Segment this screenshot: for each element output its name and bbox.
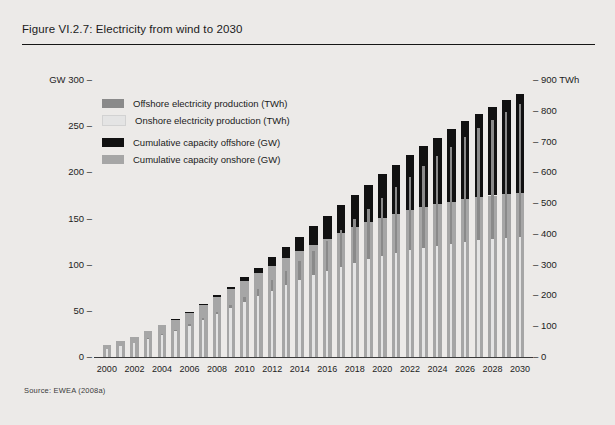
bar-strip-production-offshore [312,251,314,276]
bar-segment-capacity-offshore [295,237,304,251]
bar-strip-production-onshore [491,239,493,357]
bar-segment-capacity-offshore [185,312,194,313]
bar-strip-production-offshore [243,297,245,302]
bar-strip-production-onshore [119,346,121,357]
bar-strip-production-offshore [367,209,369,260]
bar-strip-production-onshore [133,343,135,357]
bar-strip-production-onshore [464,242,466,357]
legend-item: Cumulative capacity onshore (GW) [102,152,332,167]
bar-strip-production-offshore [147,338,149,339]
bar-strip-production-offshore [271,280,273,291]
bar-segment-capacity-offshore [171,319,180,320]
y-axis-left-tick: 150 – [20,213,92,224]
legend-swatch-icon [102,138,124,147]
bar-segment-capacity-offshore [282,247,291,258]
bar-segment-capacity-offshore [254,268,263,274]
bar-strip-production-onshore [381,256,383,357]
bar-strip-production-onshore [312,275,314,357]
y-axis-right-tick: – 100 [533,320,557,331]
bar-strip-production-onshore [285,285,287,357]
source-note: Source: EWEA (2008a) [24,386,106,395]
bar-segment-capacity-offshore [227,287,236,290]
bar-strip-production-onshore [106,349,108,357]
bar-strip-production-onshore [326,271,328,357]
y-axis-right-tick: – 700 [533,136,557,147]
bar-segment-capacity-offshore [337,205,346,232]
bar-strip-production-onshore [477,240,479,357]
y-axis-right-tick: – 400 [533,228,557,239]
bar-strip-production-offshore [436,156,438,245]
legend-label: Cumulative capacity offshore (GW) [133,137,280,148]
bar-strip-production-offshore [505,112,507,238]
bar-strip-production-onshore [147,339,149,357]
bar-strip-production-onshore [436,246,438,357]
bar-strip-production-onshore [229,308,231,357]
bar-segment-capacity-offshore [213,295,222,297]
bar-strip-production-onshore [409,250,411,357]
bar-strip-production-offshore [395,187,397,253]
bar-strip-production-onshore [257,296,259,357]
x-axis-tick: 2030 [504,364,536,374]
y-axis-left-tick: 250 – [20,120,92,131]
y-axis-right-tick: – 200 [533,289,557,300]
bar-strip-production-offshore [161,334,163,335]
bar-strip-production-offshore [298,261,300,280]
y-axis-right-tick: – 300 [533,259,557,270]
y-axis-right-tick: – 800 [533,105,557,116]
bar-strip-production-onshore [298,280,300,357]
bar-segment-capacity-offshore [240,277,249,281]
bar-strip-production-offshore [202,318,204,320]
bar-strip-production-offshore [450,147,452,244]
bar-strip-production-offshore [519,104,521,237]
legend-swatch-icon [102,99,124,108]
legend-item: Onshore electricity production (TWh) [102,113,332,128]
bar-strip-production-onshore [188,326,190,357]
bar-strip-production-onshore [161,335,163,357]
bar-strip-production-onshore [395,253,397,357]
legend-swatch-icon [102,155,124,164]
bar-strip-production-onshore [340,267,342,357]
bar-strip-production-onshore [505,238,507,357]
bar-strip-production-offshore [340,230,342,267]
bar-strip-production-onshore [353,263,355,357]
bar-strip-production-offshore [257,289,259,297]
figure-title-bar: Figure VI.2.7: Electricity from wind to … [22,22,594,46]
y-axis-left-tick: GW 300 – [20,74,92,85]
bar-strip-production-onshore [271,291,273,357]
y-axis-left-tick: 100 – [20,259,92,270]
legend-label: Cumulative capacity onshore (GW) [133,154,280,165]
bar-strip-production-onshore [450,244,452,357]
bar-segment-capacity-offshore [268,257,277,265]
y-axis-right-tick: – 500 [533,197,557,208]
y-axis-left-tick: 50 – [20,305,92,316]
bar-strip-production-offshore [409,177,411,251]
x-axis-line [94,357,533,358]
bar-strip-production-onshore [216,314,218,357]
bar-strip-production-offshore [464,137,466,242]
y-axis-right-tick: – 900 TWh [533,74,579,85]
bar-strip-production-onshore [422,248,424,357]
figure-container: Figure VI.2.7: Electricity from wind to … [0,0,615,425]
title-divider [22,44,595,45]
legend-label: Onshore electricity production (TWh) [135,115,290,126]
bar-strip-production-onshore [174,331,176,357]
legend-item: Offshore electricity production (TWh) [102,96,332,111]
legend-item: Cumulative capacity offshore (GW) [102,135,332,150]
chart-legend: Offshore electricity production (TWh)Ons… [102,96,332,169]
y-axis-right-tick: – 600 [533,166,557,177]
legend-swatch-icon [102,115,126,126]
page-title: Figure VI.2.7: Electricity from wind to … [22,22,594,36]
bar-strip-production-offshore [326,241,328,271]
bar-strip-production-offshore [174,330,176,331]
bar-strip-production-onshore [519,237,521,357]
bar-strip-production-offshore [422,166,424,248]
bar-segment-capacity-offshore [323,216,332,239]
bar-strip-production-offshore [216,312,218,314]
bar-strip-production-offshore [491,120,493,239]
bar-strip-production-offshore [353,219,355,263]
y-axis-right-tick: – 0 [533,351,546,362]
bar-strip-production-offshore [188,324,190,325]
bar-strip-production-offshore [381,198,383,256]
legend-label: Offshore electricity production (TWh) [133,98,288,109]
bar-segment-capacity-offshore [309,226,318,244]
